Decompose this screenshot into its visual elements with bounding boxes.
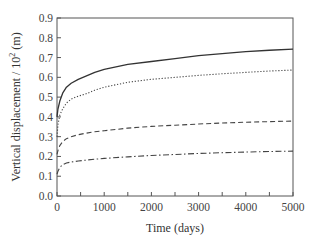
x-tick-label: 1000: [93, 201, 116, 213]
series-line-solid: [57, 49, 293, 117]
y-tick-label: 0.5: [39, 91, 54, 103]
y-tick-label: 0.4: [39, 111, 54, 123]
y-tick-label: 0.3: [39, 131, 54, 143]
x-tick-label: 0: [54, 201, 60, 213]
y-tick-label: 0.2: [39, 150, 54, 162]
y-tick-label: 0.7: [39, 52, 54, 64]
y-tick-label: 0.8: [39, 32, 54, 44]
y-tick-label: 0.0: [39, 190, 54, 202]
y-tick-label: 0.6: [39, 71, 54, 83]
series-line-dashed: [57, 121, 293, 154]
x-tick-label: 3000: [187, 201, 210, 213]
axis-ticks: [57, 18, 293, 196]
y-axis-label: Vertical displacement / 102 (m): [8, 32, 23, 181]
y-tick-labels: 0.00.10.20.30.40.50.60.70.80.9: [39, 12, 54, 202]
plot-border: [57, 18, 293, 196]
x-tick-label: 4000: [234, 201, 257, 213]
series-line-dotted: [57, 70, 293, 137]
x-tick-labels: 010002000300040005000: [54, 201, 305, 213]
x-axis-label: Time (days): [146, 221, 204, 235]
y-tick-label: 0.9: [39, 12, 54, 24]
x-tick-label: 2000: [140, 201, 163, 213]
plot-frame: [57, 18, 293, 196]
series-line-dash-dot: [57, 151, 293, 174]
series-lines: [57, 49, 293, 174]
y-tick-label: 0.1: [39, 170, 54, 182]
displacement-chart: 0.00.10.20.30.40.50.60.70.80.9 010002000…: [0, 0, 318, 246]
x-tick-label: 5000: [282, 201, 305, 213]
